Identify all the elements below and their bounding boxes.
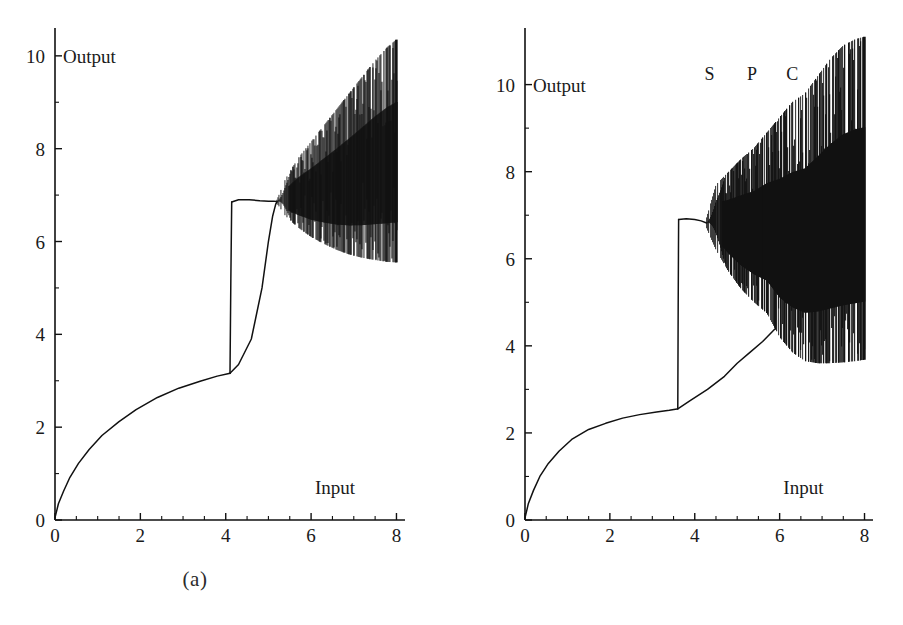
branch-curve bbox=[678, 328, 776, 409]
region-label-c: C bbox=[786, 64, 798, 84]
x-tick-label: 6 bbox=[306, 525, 316, 546]
region-label-s: S bbox=[705, 64, 715, 84]
panel-a: 024680246810OutputInput (a) bbox=[0, 0, 451, 625]
y-tick-label: 6 bbox=[506, 249, 516, 270]
branch-curve bbox=[230, 202, 232, 373]
x-tick-label: 2 bbox=[605, 525, 615, 546]
y-tick-label: 10 bbox=[26, 46, 45, 67]
y-axis-label: Output bbox=[63, 46, 117, 67]
x-tick-label: 0 bbox=[520, 525, 530, 546]
y-axis-label: Output bbox=[533, 75, 587, 96]
y-tick-label: 8 bbox=[506, 162, 516, 183]
x-tick-label: 2 bbox=[136, 525, 146, 546]
y-tick-label: 6 bbox=[36, 232, 46, 253]
plot-b: 024680246810OutputInputSPC bbox=[452, 0, 903, 560]
branch-curve bbox=[232, 200, 277, 202]
plot-a: 024680246810OutputInput bbox=[0, 0, 451, 560]
y-tick-label: 0 bbox=[506, 510, 516, 531]
panel-b: 024680246810OutputInputSPC (b) bbox=[452, 0, 903, 625]
caption-panel-a: (a) bbox=[125, 567, 265, 592]
y-tick-label: 8 bbox=[36, 139, 46, 160]
x-tick-label: 6 bbox=[775, 525, 785, 546]
branch-curve bbox=[678, 220, 679, 409]
y-tick-label: 4 bbox=[506, 336, 516, 357]
y-tick-label: 10 bbox=[496, 75, 515, 96]
chaotic-band bbox=[277, 40, 397, 263]
x-tick-label: 4 bbox=[690, 525, 700, 546]
y-tick-label: 2 bbox=[36, 417, 46, 438]
x-tick-label: 4 bbox=[221, 525, 231, 546]
chaotic-band bbox=[707, 37, 865, 364]
branch-curve bbox=[679, 219, 707, 223]
x-axis-label: Input bbox=[783, 477, 824, 498]
branch-curve bbox=[230, 202, 277, 374]
branch-curve bbox=[55, 373, 230, 517]
figure-bifurcation-diagrams: 024680246810OutputInput (a) 024680246810… bbox=[0, 0, 903, 625]
x-tick-label: 0 bbox=[50, 525, 60, 546]
region-label-p: P bbox=[747, 64, 757, 84]
branch-curve bbox=[525, 409, 677, 518]
y-tick-label: 0 bbox=[36, 510, 46, 531]
y-tick-label: 4 bbox=[36, 324, 46, 345]
x-tick-label: 8 bbox=[392, 525, 402, 546]
x-axis-label: Input bbox=[315, 477, 356, 498]
y-tick-label: 2 bbox=[506, 423, 516, 444]
x-tick-label: 8 bbox=[860, 525, 870, 546]
